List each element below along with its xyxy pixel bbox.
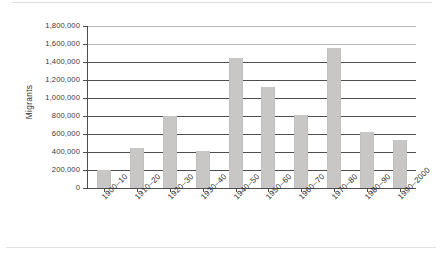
y-tick-label: 400,000 bbox=[52, 148, 80, 156]
y-tick-mark bbox=[83, 152, 88, 153]
y-tick-mark bbox=[83, 62, 88, 63]
y-tick-mark bbox=[83, 170, 88, 171]
migrants-bar-chart: Migrants 0200,000400,000600,000800,0001,… bbox=[0, 0, 442, 256]
bar-1920–30 bbox=[163, 116, 177, 188]
y-tick-label: 200,000 bbox=[52, 166, 80, 174]
bar-1950–60 bbox=[261, 87, 275, 188]
gridline-800000 bbox=[88, 116, 416, 117]
y-tick-mark bbox=[83, 116, 88, 117]
y-axis-tick-labels: 0200,000400,000600,000800,0001,000,0001,… bbox=[0, 0, 80, 256]
y-tick-label: 0 bbox=[76, 184, 80, 192]
y-tick-mark bbox=[83, 188, 88, 189]
y-tick-mark bbox=[83, 26, 88, 27]
bar-1940–50 bbox=[229, 58, 243, 189]
gridline-1800000 bbox=[88, 26, 416, 27]
gridline-1000000 bbox=[88, 98, 416, 99]
y-tick-mark bbox=[83, 98, 88, 99]
bar-1990–2000 bbox=[393, 140, 407, 188]
y-tick-label: 1,000,000 bbox=[45, 94, 80, 102]
gridline-1200000 bbox=[88, 80, 416, 81]
y-tick-label: 1,400,000 bbox=[45, 58, 80, 66]
y-tick-label: 800,000 bbox=[52, 112, 80, 120]
y-tick-label: 600,000 bbox=[52, 130, 80, 138]
plot-area bbox=[88, 26, 416, 188]
y-tick-mark bbox=[83, 134, 88, 135]
y-tick-label: 1,800,000 bbox=[45, 22, 80, 30]
y-tick-mark bbox=[83, 80, 88, 81]
y-tick-mark bbox=[83, 44, 88, 45]
bar-1980–90 bbox=[360, 132, 374, 188]
y-tick-label: 1,600,000 bbox=[45, 40, 80, 48]
bar-1970–80 bbox=[327, 48, 341, 188]
bar-1910–20 bbox=[130, 148, 144, 188]
bar-1960–70 bbox=[294, 115, 308, 188]
gridline-1400000 bbox=[88, 62, 416, 63]
y-tick-label: 1,200,000 bbox=[45, 76, 80, 84]
bar-1930–40 bbox=[196, 151, 210, 188]
gridline-1600000 bbox=[88, 44, 416, 45]
